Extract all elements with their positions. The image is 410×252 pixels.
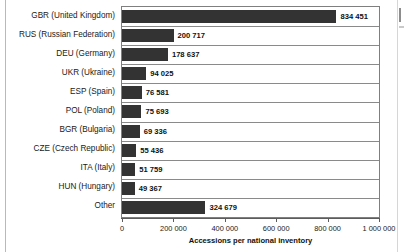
x-axis-tick xyxy=(379,218,380,222)
x-axis-tick xyxy=(122,218,123,222)
category-label: GBR (United Kingdom) xyxy=(31,11,115,21)
category-label: ITA (Italy) xyxy=(81,163,115,173)
bar-row: 76 581 xyxy=(122,83,379,102)
x-axis-tick xyxy=(173,218,174,222)
x-axis-tick xyxy=(225,218,226,222)
bar-value-label: 834 451 xyxy=(340,11,367,22)
bar-value-label: 75 693 xyxy=(145,106,168,117)
bar-row: 324 679 xyxy=(122,198,379,217)
bar-row: 200 717 xyxy=(122,26,379,45)
bar-value-label: 76 581 xyxy=(146,87,169,98)
bar xyxy=(122,144,136,157)
x-axis-tick-label: 600 000 xyxy=(263,224,290,233)
category-label: UKR (Ukraine) xyxy=(62,68,115,78)
category-label: DEU (Germany) xyxy=(56,49,115,59)
bar-row: 51 759 xyxy=(122,160,379,179)
x-axis-tick-label: 0 xyxy=(120,224,124,233)
x-axis-tick-label: 400 000 xyxy=(211,224,238,233)
bar xyxy=(122,86,142,99)
bar-row: 834 451 xyxy=(122,7,379,26)
bar-value-label: 324 679 xyxy=(209,202,236,213)
page: GBR (United Kingdom)RUS (Russian Federat… xyxy=(0,0,410,252)
bar-chart: GBR (United Kingdom)RUS (Russian Federat… xyxy=(0,0,410,252)
bar xyxy=(122,201,205,214)
bar-row: 69 336 xyxy=(122,122,379,141)
bar-value-label: 94 025 xyxy=(150,68,173,79)
bar-row: 94 025 xyxy=(122,64,379,83)
bar-row: 75 693 xyxy=(122,102,379,121)
category-label: HUN (Hungary) xyxy=(59,182,115,192)
bar xyxy=(122,182,135,195)
category-axis-labels: GBR (United Kingdom)RUS (Russian Federat… xyxy=(0,6,118,218)
bar xyxy=(122,10,336,23)
x-axis-tick xyxy=(328,218,329,222)
bar-value-label: 51 759 xyxy=(139,164,162,175)
bar-row: 178 637 xyxy=(122,45,379,64)
x-axis-tick-label: 800 000 xyxy=(314,224,341,233)
bar xyxy=(122,48,168,61)
x-axis-tick xyxy=(276,218,277,222)
x-axis-title: Accessions per national inventory xyxy=(121,236,380,245)
bar-value-label: 55 436 xyxy=(140,145,163,156)
bar-value-label: 178 637 xyxy=(172,49,199,60)
x-axis-tick-label: 1 000 000 xyxy=(363,224,396,233)
bar xyxy=(122,67,146,80)
bar-row: 55 436 xyxy=(122,141,379,160)
category-label: CZE (Czech Republic) xyxy=(34,144,115,154)
category-label: RUS (Russian Federation) xyxy=(19,30,115,40)
bar xyxy=(122,125,140,138)
bar xyxy=(122,29,174,42)
x-axis-line xyxy=(121,218,380,219)
bar-series: 834 451200 717178 63794 02576 58175 6936… xyxy=(122,7,379,217)
bar xyxy=(122,163,135,176)
category-label: POL (Poland) xyxy=(66,106,115,116)
category-label: ESP (Spain) xyxy=(70,87,115,97)
bar-value-label: 49 367 xyxy=(139,183,162,194)
category-label: BGR (Bulgaria) xyxy=(59,125,115,135)
bar xyxy=(122,105,141,118)
category-label: Other xyxy=(95,201,115,211)
x-axis-tick-label: 200 000 xyxy=(160,224,187,233)
bar-value-label: 200 717 xyxy=(178,30,205,41)
bar-row: 49 367 xyxy=(122,179,379,198)
bar-value-label: 69 336 xyxy=(144,126,167,137)
